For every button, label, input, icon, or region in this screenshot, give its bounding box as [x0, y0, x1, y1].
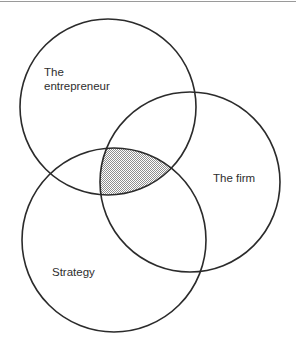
venn-diagram-figure: The entrepreneur The firm Strategy	[0, 0, 296, 347]
top-divider-rule	[0, 1, 296, 2]
shaded-triple-intersection	[22, 148, 206, 332]
label-entrepreneur: The entrepreneur	[44, 66, 110, 92]
label-strategy: Strategy	[52, 266, 95, 278]
triple-intersection-fill	[22, 148, 206, 332]
venn-diagram-canvas: The entrepreneur The firm Strategy	[0, 0, 296, 347]
label-firm: The firm	[213, 172, 255, 184]
